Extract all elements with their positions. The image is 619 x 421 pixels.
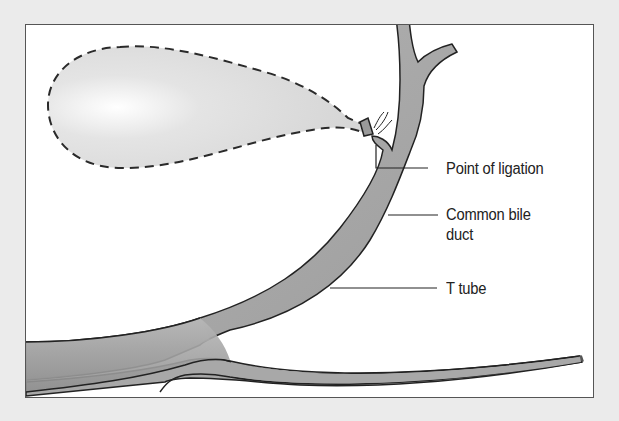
label-common-bile-duct-line2: duct [446,225,473,244]
label-common-bile-duct-line1: Common bile [446,205,531,224]
ligature-suture-icon [374,112,392,134]
label-point-of-ligation: Point of ligation [446,159,544,178]
figure-page: Point of ligation Common bile duct T tub… [0,0,619,421]
cystic-duct-stump [360,118,373,136]
label-t-tube: T tube [446,279,486,298]
hepatic-duct-cut-end [395,8,409,15]
gallbladder-outline [48,46,362,168]
